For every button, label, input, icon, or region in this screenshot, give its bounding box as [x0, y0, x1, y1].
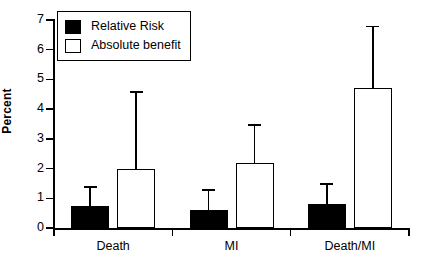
y-axis-tick-label: 3	[22, 132, 44, 145]
error-bar-stem	[372, 26, 374, 88]
y-axis-tick	[46, 198, 53, 200]
y-axis-tick	[46, 49, 53, 51]
error-bar-stem	[208, 189, 210, 210]
error-bar-cap	[320, 183, 333, 185]
y-axis-tick-label: 4	[22, 102, 44, 115]
y-axis-tick-label: 1	[22, 191, 44, 204]
y-axis-tick	[46, 227, 53, 229]
error-bar-stem	[254, 124, 256, 163]
bar-mi-relative-risk	[190, 210, 228, 228]
legend-swatch-dark-icon	[65, 20, 81, 34]
bar-death-relative-risk	[71, 206, 109, 228]
legend: Relative Risk Absolute benefit	[57, 11, 191, 61]
error-bar-cap	[366, 26, 379, 28]
y-axis-tick-label: 2	[22, 162, 44, 175]
x-axis-tick-label: Death	[53, 240, 173, 253]
y-axis-tick-label: 5	[22, 72, 44, 85]
error-bar-cap	[248, 124, 261, 126]
legend-label-absolute-benefit: Absolute benefit	[91, 39, 181, 52]
legend-item-relative-risk: Relative Risk	[65, 17, 181, 36]
y-axis-tick	[46, 168, 53, 170]
error-bar-stem	[326, 183, 328, 204]
x-axis-tick	[53, 229, 55, 236]
bar-chart: Percent 01234567 DeathMIDeath/MI Relativ…	[0, 0, 426, 265]
error-bar-cap	[130, 91, 143, 93]
y-axis-tick-label: 7	[22, 13, 44, 26]
x-axis-tick	[290, 229, 292, 236]
bar-death-absolute-benefit	[117, 169, 155, 228]
x-axis-tick	[172, 229, 174, 236]
y-axis-tick	[46, 138, 53, 140]
bar-mi-absolute-benefit	[236, 163, 274, 228]
error-bar-stem	[135, 91, 137, 168]
error-bar-cap	[84, 186, 97, 188]
x-axis-tick-label: MI	[172, 240, 292, 253]
error-bar-cap	[202, 189, 215, 191]
bar-death-mi-relative-risk	[308, 204, 346, 228]
x-axis-tick-label: Death/MI	[290, 240, 410, 253]
x-axis-tick	[408, 229, 410, 236]
y-axis-tick-label: 0	[22, 221, 44, 234]
legend-label-relative-risk: Relative Risk	[91, 20, 164, 33]
legend-item-absolute-benefit: Absolute benefit	[65, 36, 181, 55]
y-axis-title: Percent	[0, 88, 14, 133]
bar-death-mi-absolute-benefit	[354, 88, 392, 228]
y-axis-tick	[46, 19, 53, 21]
legend-swatch-light-icon	[65, 39, 81, 53]
error-bar-stem	[89, 186, 91, 205]
x-axis-line	[53, 228, 410, 230]
y-axis-tick-label: 6	[22, 43, 44, 56]
y-axis-tick	[46, 79, 53, 81]
y-axis-tick	[46, 108, 53, 110]
